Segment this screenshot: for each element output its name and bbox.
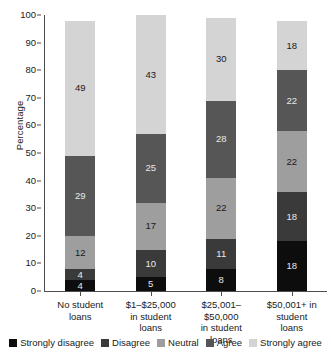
x-axis-label: No studentloans [45,299,116,322]
y-axis-tick-mark [37,180,41,181]
y-axis-tick-mark [37,291,41,292]
bar-segment[interactable]: 18 [277,21,307,71]
legend-item[interactable]: Strongly disagree [9,337,94,348]
legend-label: Disagree [112,337,150,348]
bar-segment[interactable]: 10 [136,250,166,278]
y-axis-tick-label: 90 [25,38,36,48]
y-axis-tick-label: 40 [25,176,36,186]
stacked-bar[interactable]: 1818222218 [277,21,307,291]
bar-segment-value: 22 [286,96,297,106]
bar-segment-value: 17 [145,221,156,231]
bar-segment-value: 49 [75,83,86,93]
bar-segment-value: 4 [78,270,83,280]
y-axis-tick-mark [37,125,41,126]
bar-segment[interactable]: 12 [65,236,95,269]
bar-segment[interactable]: 17 [136,203,166,250]
x-axis-label-line: in student [186,322,257,334]
y-axis-tick-label: 50 [25,148,36,158]
x-axis-label-line: $50,001+ in [257,299,328,311]
stacked-bar[interactable]: 811222830 [206,18,236,291]
bar-segment-value: 18 [286,41,297,51]
x-axis-label-line: No student [45,299,116,311]
bar-segment-value: 8 [219,275,224,285]
bar-group: 811222830 [206,15,236,291]
bar-segment[interactable]: 4 [65,280,95,291]
legend-item[interactable]: Agree [206,337,242,348]
bar-segment[interactable]: 49 [65,21,95,156]
y-axis-tick-mark [37,70,41,71]
stacked-bar-chart: Percentage 0102030405060708090100 441229… [0,0,331,352]
y-axis-tick-mark [37,97,41,98]
bar-segment-value: 29 [75,191,86,201]
y-axis-tick-label: 10 [25,259,36,269]
plot-area: 441229495101725438112228301818222218 [45,15,327,291]
bar-group: 1818222218 [277,15,307,291]
x-axis-tick-mark [151,291,152,296]
y-axis-tick-mark [37,235,41,236]
y-axis-tick-label: 60 [25,121,36,131]
bar-segment-value: 18 [286,212,297,222]
y-axis-ticks: 0102030405060708090100 [0,0,45,352]
stacked-bar[interactable]: 510172543 [136,15,166,291]
bar-segment-value: 25 [145,163,156,173]
y-axis-tick-mark [37,42,41,43]
bar-segment[interactable]: 22 [277,70,307,131]
bar-segment[interactable]: 22 [206,178,236,239]
bar-segment-value: 22 [286,157,297,167]
y-axis-tick-mark [37,15,41,16]
bar-segment[interactable]: 30 [206,18,236,101]
x-axis-label-line: $25,001– [186,299,257,311]
bar-segment-value: 10 [145,259,156,269]
bar-segment[interactable]: 4 [65,269,95,280]
x-axis-line [44,291,327,292]
legend-item[interactable]: Disagree [101,337,150,348]
bar-segment-value: 43 [145,70,156,80]
bar-segment[interactable]: 22 [277,131,307,192]
legend-item[interactable]: Neutral [157,337,199,348]
y-axis-tick-mark [37,263,41,264]
bar-segment[interactable]: 28 [206,101,236,178]
bar-segment[interactable]: 18 [277,241,307,291]
legend-label: Strongly agree [260,337,322,348]
x-axis-label-line: $50,000 [186,311,257,323]
legend-label: Strongly disagree [20,337,94,348]
stacked-bar[interactable]: 44122949 [65,21,95,291]
x-axis-label-line: loans [257,322,328,334]
y-axis-tick-label: 100 [20,10,36,20]
y-axis-tick-mark [37,208,41,209]
x-axis-label: $1–$25,000in studentloans [116,299,187,334]
chart-legend: Strongly disagreeDisagreeNeutralAgreeStr… [0,337,331,348]
x-axis-label-line: student [257,311,328,323]
bar-segment[interactable]: 29 [65,156,95,236]
bar-segment-value: 18 [286,261,297,271]
x-axis-tick-mark [292,291,293,296]
bar-segment[interactable]: 8 [206,269,236,291]
x-axis-label-line: $1–$25,000 [116,299,187,311]
bar-group: 44122949 [65,15,95,291]
legend-swatch-icon [9,339,17,347]
legend-swatch-icon [101,339,109,347]
bar-segment[interactable]: 18 [277,192,307,242]
bar-segment[interactable]: 5 [136,277,166,291]
y-axis-tick-label: 70 [25,93,36,103]
bar-segment-value: 4 [78,281,83,291]
bar-segment-value: 5 [148,279,153,289]
y-axis-tick-label: 80 [25,65,36,75]
bar-segment-value: 28 [216,134,227,144]
legend-swatch-icon [206,339,214,347]
x-axis-label: $50,001+ instudentloans [257,299,328,334]
x-axis-tick-mark [80,291,81,296]
x-axis-label-line: loans [116,322,187,334]
bar-segment[interactable]: 11 [206,239,236,269]
legend-swatch-icon [157,339,165,347]
legend-label: Neutral [168,337,199,348]
bar-segment-value: 22 [216,203,227,213]
y-axis-tick-mark [37,153,41,154]
bar-segment-value: 30 [216,54,227,64]
legend-item[interactable]: Strongly agree [249,337,322,348]
bar-segment[interactable]: 43 [136,15,166,134]
bar-segment[interactable]: 25 [136,134,166,203]
x-axis-label-line: in student [116,311,187,323]
x-axis-tick-mark [221,291,222,296]
bar-group: 510172543 [136,15,166,291]
